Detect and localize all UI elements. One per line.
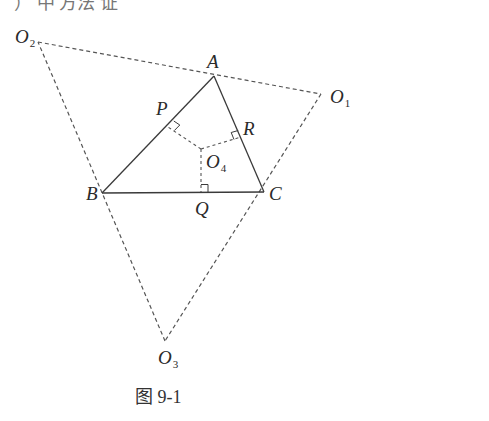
segment-o2-o1 (38, 42, 321, 94)
segment-a-b (102, 76, 214, 193)
label-q: Q (195, 199, 209, 218)
label-o4: O4 (206, 152, 226, 174)
segment-c-a (214, 76, 264, 192)
geometry-figure (0, 0, 489, 421)
segment-o4-p (168, 127, 201, 149)
incenter-perpendiculars (168, 127, 241, 192)
label-o3: O3 (158, 348, 178, 370)
label-r: R (243, 119, 255, 138)
label-p: P (156, 99, 168, 118)
segment-o4-r (201, 137, 241, 149)
triangle-abc (102, 76, 264, 193)
right-angle-mark-q (201, 185, 208, 193)
label-o1: O1 (330, 87, 350, 109)
label-a: A (207, 52, 219, 71)
right-angle-mark-p (174, 121, 180, 131)
segment-b-c (102, 192, 264, 193)
label-b: B (86, 184, 98, 203)
segment-o3-o2 (38, 42, 165, 341)
label-c: C (269, 184, 282, 203)
label-o2: O2 (15, 27, 35, 49)
figure-caption: 图 9-1 (135, 382, 182, 408)
